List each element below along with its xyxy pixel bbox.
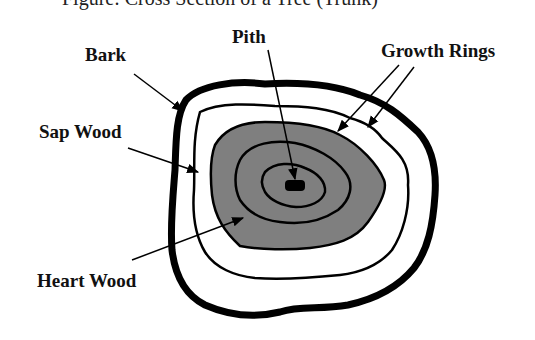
pith-label: Pith: [232, 27, 266, 46]
pith-core: [285, 180, 305, 191]
growth-rings-label: Growth Rings: [381, 41, 495, 60]
bark-label: Bark: [85, 45, 126, 64]
tree-cross-section-diagram: Figure: Cross Section of a Tree (Trunk) …: [0, 0, 535, 340]
heart-wood-label: Heart Wood: [37, 271, 136, 290]
bark-arrow: [134, 74, 183, 111]
sap-wood-label: Sap Wood: [39, 122, 122, 141]
